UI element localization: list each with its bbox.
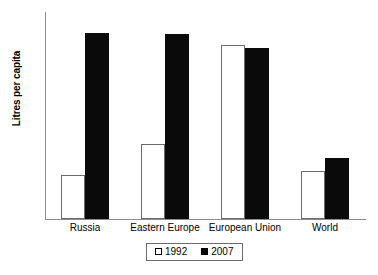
bar-eastern-europe-2007 [165, 34, 189, 219]
x-tick-label-eastern-europe: Eastern Europe [130, 222, 200, 233]
bar-russia-1992 [61, 175, 85, 219]
x-tick-label-world: World [312, 222, 338, 233]
bar-european-union-2007 [245, 48, 269, 219]
legend-item-1992[interactable]: 1992 [155, 246, 187, 257]
bar-russia-2007 [85, 33, 109, 219]
bar-chart: Litres per capita 9080706050403020100 Ru… [0, 0, 378, 275]
x-tick-label-russia: Russia [70, 222, 101, 233]
plot-area [45, 12, 365, 219]
x-axis-line [45, 219, 366, 220]
legend-label-1992: 1992 [165, 246, 187, 257]
bar-eastern-europe-1992 [141, 144, 165, 219]
open-square-icon [155, 248, 162, 255]
bar-world-1992 [301, 171, 325, 219]
legend-item-2007[interactable]: 2007 [201, 246, 233, 257]
y-axis-title: Litres per capita [11, 29, 22, 149]
chart-legend: 1992 2007 [146, 243, 243, 261]
x-tick-label-european-union: European Union [209, 222, 281, 233]
filled-square-icon [201, 248, 208, 255]
bar-world-2007 [325, 158, 349, 219]
legend-label-2007: 2007 [211, 246, 233, 257]
bars-layer [45, 12, 365, 219]
bar-european-union-1992 [221, 45, 245, 219]
